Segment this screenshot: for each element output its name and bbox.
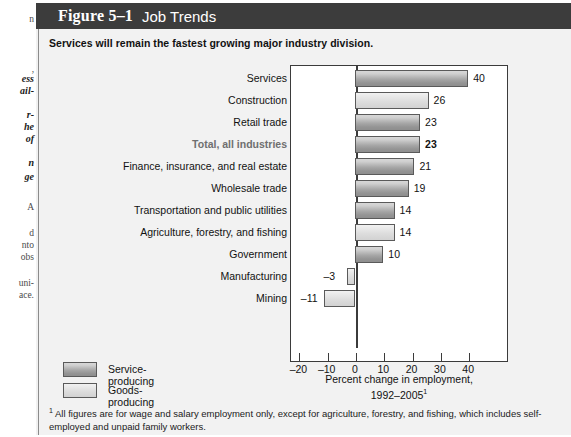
bar-value-label: –11 xyxy=(301,292,318,304)
legend-swatch-goods xyxy=(63,383,97,398)
bar-row: Services40 xyxy=(39,68,570,90)
x-axis-title: Percent change in employment, 1992–20051 xyxy=(290,373,508,401)
x-axis-tick xyxy=(441,353,442,361)
margin-text-line: r- xyxy=(27,110,34,120)
margin-text-line: ess xyxy=(22,74,34,84)
bar-category-label: Wholesale trade xyxy=(211,182,287,194)
bar-chart: Services40Construction26Retail trade23To… xyxy=(39,59,570,379)
margin-text-line: of xyxy=(26,134,34,144)
figure-body: Services will remain the fastest growing… xyxy=(38,29,570,435)
x-axis-tick xyxy=(413,353,414,361)
bar-row: Finance, insurance, and real estate21 xyxy=(39,156,570,178)
bar-value-label: –3 xyxy=(324,270,336,282)
x-axis-tick xyxy=(356,353,357,361)
bar-service xyxy=(355,136,420,153)
bar-value-label: 40 xyxy=(473,72,485,84)
bar-row: Mining–11 xyxy=(39,288,570,310)
bar-service xyxy=(355,158,414,175)
margin-text-line: A xyxy=(27,202,34,212)
bar-row: Construction26 xyxy=(39,90,570,112)
bar-service xyxy=(355,180,409,197)
figure-subtitle: Services will remain the fastest growing… xyxy=(49,37,373,49)
bar-row: Wholesale trade19 xyxy=(39,178,570,200)
figure-header: Figure 5–1 Job Trends xyxy=(36,3,571,29)
bar-row: Retail trade23 xyxy=(39,112,570,134)
bar-category-label: Agriculture, forestry, and fishing xyxy=(140,226,287,238)
bar-value-label: 23 xyxy=(425,116,437,128)
x-axis-title-line2: 1992–20051 xyxy=(290,386,508,401)
bar-category-label: Services xyxy=(247,72,287,84)
bar-category-label: Retail trade xyxy=(233,116,287,128)
margin-text-line: d xyxy=(29,228,34,238)
bar-category-label: Total, all industries xyxy=(192,138,287,150)
margin-text-line: n xyxy=(28,158,34,168)
bar-value-label: 19 xyxy=(414,182,426,194)
bar-category-label: Finance, insurance, and real estate xyxy=(123,160,287,172)
bar-row: Transportation and public utilities14 xyxy=(39,200,570,222)
margin-text-line: nto xyxy=(22,240,34,250)
bar-service xyxy=(355,202,395,219)
margin-text-line: he xyxy=(24,122,34,132)
bar-service xyxy=(355,246,383,263)
bar-value-label: 26 xyxy=(434,94,446,106)
bar-value-label: 23 xyxy=(425,138,437,150)
bar-category-label: Construction xyxy=(228,94,287,106)
bar-goods xyxy=(355,92,429,109)
margin-text-line: ail- xyxy=(20,86,34,96)
bar-service xyxy=(355,70,468,87)
legend-swatch-service xyxy=(63,362,97,377)
bar-category-label: Mining xyxy=(256,292,287,304)
figure-panel: Figure 5–1 Job Trends Services will rema… xyxy=(36,3,571,435)
x-axis-title-line1: Percent change in employment, xyxy=(290,373,508,386)
margin-text-line: obs xyxy=(21,252,34,262)
bar-category-label: Government xyxy=(229,248,287,260)
bar-category-label: Manufacturing xyxy=(220,270,287,282)
bar-row: Manufacturing–3 xyxy=(39,266,570,288)
bar-row: Government10 xyxy=(39,244,570,266)
x-axis-tick xyxy=(328,353,329,361)
x-axis-tick xyxy=(299,353,300,361)
bar-goods xyxy=(324,290,355,307)
x-axis-tick xyxy=(469,353,470,361)
bar-goods xyxy=(355,224,395,241)
bar-value-label: 14 xyxy=(400,226,412,238)
bar-value-label: 14 xyxy=(400,204,412,216)
bar-value-label: 21 xyxy=(419,160,431,172)
bar-row: Agriculture, forestry, and fishing14 xyxy=(39,222,570,244)
footnote-marker: 1 xyxy=(49,407,53,414)
margin-text-line: n xyxy=(29,14,34,24)
bar-goods xyxy=(347,268,355,285)
footnote-text: All figures are for wage and salary empl… xyxy=(49,408,542,432)
figure-number: Figure 5–1 xyxy=(58,7,133,25)
margin-text-line: ge xyxy=(25,172,34,182)
page-margin-text: n,essail-r-heofngeAdntoobsuni-ace. xyxy=(0,0,36,437)
margin-text-line: uni- xyxy=(19,278,34,288)
bar-value-label: 10 xyxy=(388,248,400,260)
figure-title: Job Trends xyxy=(142,8,216,25)
bar-service xyxy=(355,114,420,131)
bar-row: Total, all industries23 xyxy=(39,134,570,156)
bar-category-label: Transportation and public utilities xyxy=(134,204,287,216)
figure-footnote: 1 All figures are for wage and salary em… xyxy=(49,405,561,433)
x-axis-tick xyxy=(384,353,385,361)
margin-text-line: ace. xyxy=(19,290,34,300)
